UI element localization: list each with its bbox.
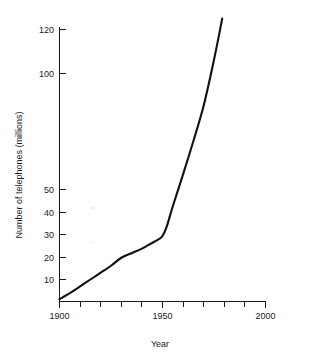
x-tick-label-2000: 2000 xyxy=(255,311,275,321)
x-tick-label-1900: 1900 xyxy=(49,311,69,321)
y-tick-label-30: 30 xyxy=(44,230,54,240)
y-tick-label-40: 40 xyxy=(44,208,54,218)
y-tick-label-20: 20 xyxy=(44,253,54,263)
telephone-growth-line-chart: 120 100 50 40 30 20 10 1900 1950 2000 xyxy=(0,0,319,359)
y-tick-label-100: 100 xyxy=(39,69,54,79)
x-tick-label-1950: 1950 xyxy=(152,311,172,321)
x-axis-title: Year xyxy=(151,339,169,349)
scan-speck xyxy=(90,241,92,243)
y-tick-label-120: 120 xyxy=(39,25,54,35)
y-tick-label-50: 50 xyxy=(44,185,54,195)
chart-background xyxy=(0,0,319,359)
scan-speck xyxy=(92,207,94,209)
chart-figure: 120 100 50 40 30 20 10 1900 1950 2000 xyxy=(0,0,319,359)
y-axis-title: Number of telephones (millions) xyxy=(14,111,24,238)
y-tick-label-10: 10 xyxy=(44,275,54,285)
